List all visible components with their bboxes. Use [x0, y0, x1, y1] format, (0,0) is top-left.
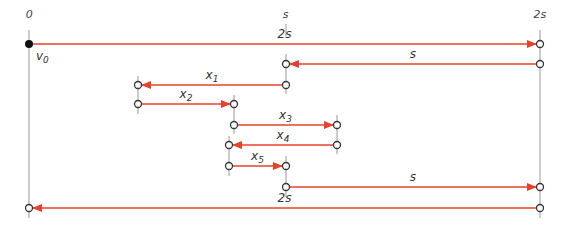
node-circle: [537, 184, 544, 191]
node-circle: [231, 101, 238, 108]
segment-label-text: 2s: [278, 27, 292, 41]
node-circle: [226, 142, 233, 149]
node-circle: [283, 163, 290, 170]
node-circle: [537, 205, 544, 212]
origin-label: v0: [36, 50, 49, 65]
segment-label-text: s: [410, 170, 416, 184]
seg-x3-label: x3: [279, 109, 292, 124]
seg-2s-return-label: 2s: [278, 192, 292, 204]
segment-label-subscript: 3: [286, 114, 292, 124]
node-circle: [26, 205, 33, 212]
seg-s-forward-label: s: [410, 171, 416, 183]
seg-x2-label: x2: [180, 88, 193, 103]
node-circle: [283, 61, 290, 68]
node-circle: [334, 142, 341, 149]
node-circle: [537, 61, 544, 68]
segment-label-subscript: 5: [258, 155, 264, 165]
axis-label-s: s: [283, 9, 289, 20]
node-circle: [135, 82, 142, 89]
node-circle: [334, 122, 341, 129]
seg-x1-label: x1: [206, 69, 219, 84]
node-circle: [231, 122, 238, 129]
seg-x4-label: x4: [277, 129, 290, 144]
segment-label-subscript: 1: [213, 74, 219, 84]
seg-2s-forward-label: 2s: [278, 28, 292, 40]
segment-label-text: s: [410, 47, 416, 61]
segment-label-subscript: 2: [187, 93, 193, 103]
origin-dot: [25, 40, 33, 48]
node-circle: [226, 163, 233, 170]
segment-label-subscript: 4: [284, 134, 290, 144]
node-circle: [135, 101, 142, 108]
segments: [29, 44, 536, 208]
segment-label-text: 2s: [278, 191, 292, 205]
axis-label-two-s: 2s: [533, 9, 546, 20]
node-circle: [283, 184, 290, 191]
node-circle: [283, 82, 290, 89]
node-circle: [537, 41, 544, 48]
seg-x5-label: x5: [251, 150, 264, 165]
axis-label-zero: 0: [26, 9, 33, 20]
seg-s-return-label: s: [410, 48, 416, 60]
origin-label-subscript: 0: [43, 55, 49, 65]
